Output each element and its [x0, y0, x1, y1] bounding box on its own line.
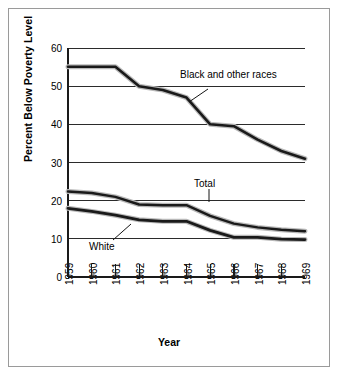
total-label: Total	[194, 178, 215, 189]
series-black-and-other-races	[68, 67, 305, 159]
white-leader-line	[113, 224, 131, 240]
line-chart: Percent Below Poverty Level Year 0 10 20…	[0, 0, 338, 375]
black-and-other-races-label: Black and other races	[180, 69, 277, 80]
white-label: White	[89, 241, 115, 252]
figure-page: Percent Below Poverty Level Year 0 10 20…	[0, 0, 338, 375]
black-and-other-races-leader-line	[189, 89, 208, 102]
plot-area	[0, 0, 338, 375]
x-tick-marks	[92, 264, 282, 277]
